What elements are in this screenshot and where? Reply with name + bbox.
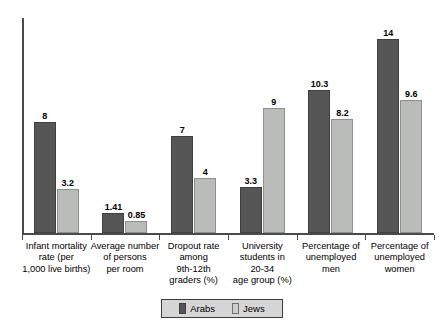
category-label-line: of persons (91, 252, 160, 263)
bar-jews: 0.85 (125, 221, 147, 233)
bar-value-label: 9 (271, 97, 276, 107)
category-label-line: students in (228, 252, 297, 263)
bar-value-label: 3.2 (62, 178, 75, 188)
category-label-line: women (365, 264, 434, 275)
category-label: Average numberof personsper room (91, 241, 160, 275)
category-label: Infant mortalityrate (per1,000 live birt… (22, 241, 91, 275)
category-label-line: rate (per (22, 252, 91, 263)
bar-group: 74 (159, 18, 228, 233)
bar-value-label: 14 (383, 28, 393, 38)
x-axis-tick (159, 235, 160, 240)
category-label-line: Percentage of (365, 241, 434, 252)
category-label-line: 20-34 (228, 264, 297, 275)
bar-value-label: 1.41 (105, 202, 123, 212)
category-label-line: 9th-12th (159, 264, 228, 275)
bar-jews: 8.2 (331, 119, 353, 233)
legend-swatch-jews (232, 303, 239, 314)
x-axis-tick (228, 235, 229, 240)
bar-arabs: 3.3 (240, 187, 262, 233)
bar-arabs: 8 (34, 122, 56, 233)
bar-jews: 3.2 (57, 189, 79, 233)
x-axis-category-labels: Infant mortalityrate (per1,000 live birt… (22, 241, 434, 299)
category-label-line: Dropout rate (159, 241, 228, 252)
bar-value-label: 10.3 (311, 79, 329, 89)
category-label-line: men (297, 264, 366, 275)
bar-jews: 9 (263, 108, 285, 233)
bar-group: 10.38.2 (297, 18, 366, 233)
category-label-line: per room (91, 264, 160, 275)
bar-arabs: 14 (377, 39, 399, 233)
category-label-line: University (228, 241, 297, 252)
category-label: Percentage ofunemployedmen (297, 241, 366, 275)
bar-value-label: 8 (42, 111, 47, 121)
legend-label: Jews (243, 303, 265, 314)
category-label-line: among (159, 252, 228, 263)
bar-chart: 83.21.410.85743.3910.38.2149.6 Infant mo… (0, 0, 443, 331)
bar-jews: 9.6 (400, 100, 422, 233)
category-label-line: unemployed (365, 252, 434, 263)
x-axis-tick (297, 235, 298, 240)
x-axis-tick (22, 235, 23, 240)
x-axis-tick (91, 235, 92, 240)
legend-item-arabs[interactable]: Arabs (179, 303, 215, 314)
bar-group: 3.39 (228, 18, 297, 233)
category-label: Universitystudents in20-34age group (%) (228, 241, 297, 286)
bar-group: 1.410.85 (91, 18, 160, 233)
chart-legend: ArabsJews (161, 299, 283, 318)
category-label-line: unemployed (297, 252, 366, 263)
bar-value-label: 9.6 (405, 89, 418, 99)
plot-area: 83.21.410.85743.3910.38.2149.6 (22, 18, 434, 233)
bar-value-label: 0.85 (128, 210, 146, 220)
bar-value-label: 3.3 (245, 176, 258, 186)
legend-swatch-arabs (179, 303, 186, 314)
bar-jews: 4 (194, 178, 216, 233)
bar-value-label: 4 (203, 167, 208, 177)
category-label: Percentage ofunemployedwomen (365, 241, 434, 275)
bar-value-label: 8.2 (336, 108, 349, 118)
legend-label: Arabs (190, 303, 215, 314)
bar-group: 149.6 (365, 18, 434, 233)
category-label-line: Average number (91, 241, 160, 252)
category-label-line: Infant mortality (22, 241, 91, 252)
bar-value-label: 7 (180, 125, 185, 135)
category-label-line: graders (%) (159, 275, 228, 286)
category-label-line: Percentage of (297, 241, 366, 252)
x-axis-tick (365, 235, 366, 240)
category-label-line: age group (%) (228, 275, 297, 286)
bar-group: 83.2 (22, 18, 91, 233)
bar-arabs: 7 (171, 136, 193, 233)
bar-arabs: 10.3 (308, 90, 330, 233)
x-axis-tick (434, 235, 435, 240)
bar-arabs: 1.41 (102, 213, 124, 233)
legend-item-jews[interactable]: Jews (232, 303, 265, 314)
category-label-line: 1,000 live births) (22, 264, 91, 275)
category-label: Dropout rateamong9th-12thgraders (%) (159, 241, 228, 286)
